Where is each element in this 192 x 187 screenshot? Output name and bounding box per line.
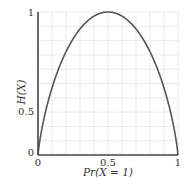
y-tick-0: 0 bbox=[28, 147, 34, 158]
grid-lines bbox=[38, 12, 178, 155]
y-axis-label: H(X) bbox=[15, 80, 27, 106]
x-tick-1: 1 bbox=[175, 157, 181, 168]
x-tick-0: 0 bbox=[35, 157, 41, 168]
entropy-chart: 1 0.5 0 0 0.5 1 Pr(X = 1) H(X) bbox=[0, 0, 192, 187]
y-tick-0.5: 0.5 bbox=[18, 106, 34, 117]
y-tick-1: 1 bbox=[28, 7, 34, 18]
x-axis-label: Pr(X = 1) bbox=[82, 166, 133, 178]
